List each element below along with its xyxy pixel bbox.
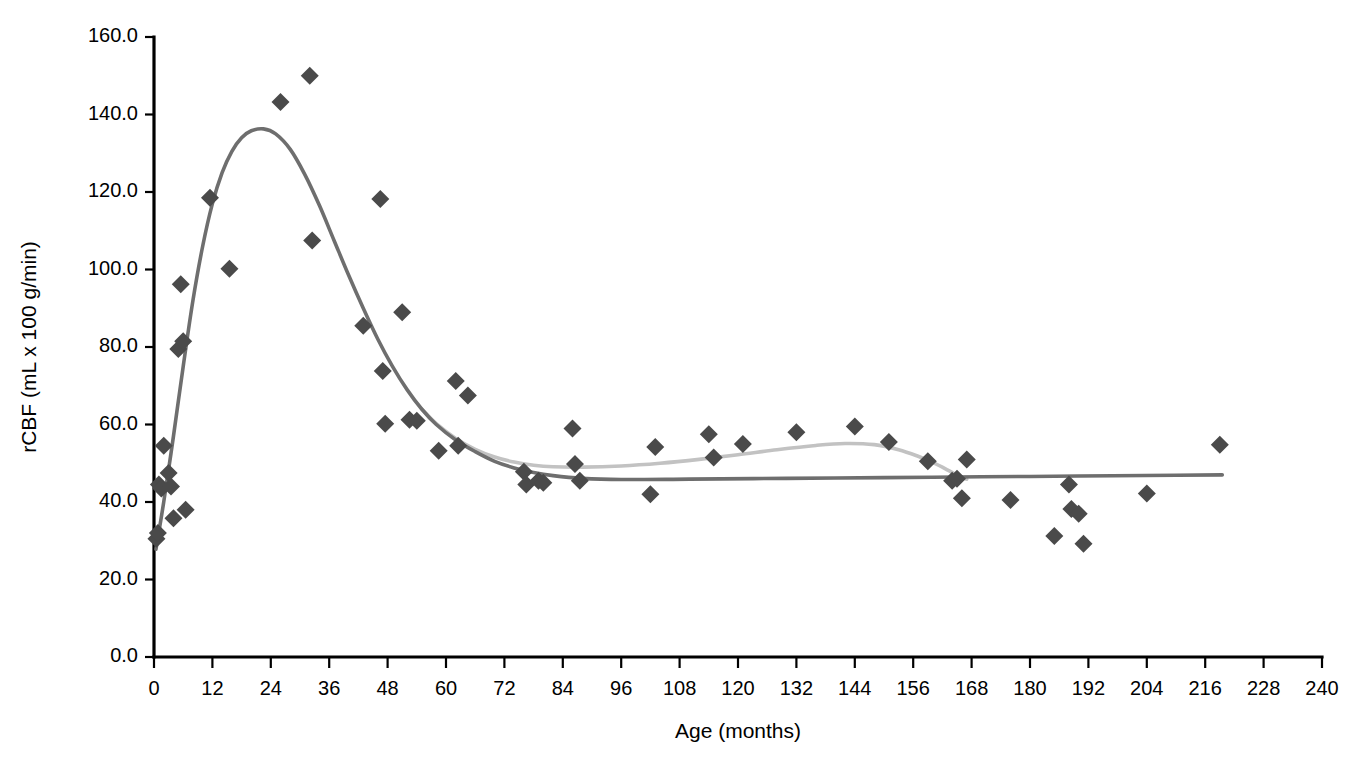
data-point-marker bbox=[301, 67, 319, 85]
x-tick-label: 0 bbox=[148, 677, 159, 699]
y-axis-tick-group: 0.020.040.060.080.0100.0120.0140.0160.0 bbox=[88, 24, 154, 666]
y-tick-label: 20.0 bbox=[99, 567, 138, 589]
data-point-marker bbox=[1002, 491, 1020, 509]
x-axis-title: Age (months) bbox=[675, 719, 801, 742]
chart-container: 0.020.040.060.080.0100.0120.0140.0160.0 … bbox=[0, 0, 1356, 763]
x-tick-label: 216 bbox=[1189, 677, 1222, 699]
data-point-marker bbox=[272, 93, 290, 111]
data-point-marker bbox=[566, 455, 584, 473]
data-point-marker bbox=[646, 438, 664, 456]
data-point-marker bbox=[958, 450, 976, 468]
data-point-marker bbox=[919, 452, 937, 470]
data-point-marker bbox=[846, 417, 864, 435]
x-tick-label: 24 bbox=[260, 677, 282, 699]
x-tick-label: 48 bbox=[376, 677, 398, 699]
x-tick-label: 240 bbox=[1305, 677, 1338, 699]
data-point-marker bbox=[393, 303, 411, 321]
x-tick-label: 72 bbox=[493, 677, 515, 699]
x-tick-label: 228 bbox=[1247, 677, 1280, 699]
x-tick-label: 108 bbox=[663, 677, 696, 699]
x-axis-tick-group: 0122436486072849610812013214415616818019… bbox=[148, 657, 1338, 699]
y-tick-label: 160.0 bbox=[88, 24, 138, 46]
y-tick-label: 140.0 bbox=[88, 102, 138, 124]
x-tick-label: 84 bbox=[552, 677, 574, 699]
data-point-marker bbox=[371, 190, 389, 208]
data-point-marker bbox=[172, 275, 190, 293]
y-tick-label: 40.0 bbox=[99, 489, 138, 511]
x-tick-label: 168 bbox=[955, 677, 988, 699]
data-point-marker bbox=[564, 419, 582, 437]
data-point-marker bbox=[700, 425, 718, 443]
y-tick-label: 60.0 bbox=[99, 412, 138, 434]
data-point-marker bbox=[220, 260, 238, 278]
data-point-marker bbox=[1138, 484, 1156, 502]
x-tick-label: 192 bbox=[1072, 677, 1105, 699]
scatter-plot: 0.020.040.060.080.0100.0120.0140.0160.0 … bbox=[0, 0, 1356, 763]
data-point-marker bbox=[1060, 476, 1078, 494]
y-tick-label: 80.0 bbox=[99, 334, 138, 356]
data-point-marker bbox=[953, 489, 971, 507]
data-point-marker bbox=[449, 437, 467, 455]
x-tick-label: 204 bbox=[1130, 677, 1163, 699]
x-tick-label: 96 bbox=[610, 677, 632, 699]
x-tick-label: 180 bbox=[1013, 677, 1046, 699]
data-point-marker bbox=[705, 448, 723, 466]
x-tick-label: 132 bbox=[780, 677, 813, 699]
y-tick-label: 0.0 bbox=[110, 644, 138, 666]
data-point-marker bbox=[376, 415, 394, 433]
data-point-marker bbox=[303, 231, 321, 249]
data-point-marker bbox=[1045, 527, 1063, 545]
data-point-marker bbox=[430, 442, 448, 460]
x-tick-label: 156 bbox=[897, 677, 930, 699]
x-tick-label: 144 bbox=[838, 677, 871, 699]
x-tick-label: 60 bbox=[435, 677, 457, 699]
data-point-marker bbox=[447, 372, 465, 390]
y-tick-label: 120.0 bbox=[88, 179, 138, 201]
y-tick-label: 100.0 bbox=[88, 257, 138, 279]
y-axis-title: rCBF (mL x 100 g/min) bbox=[17, 241, 40, 453]
data-point-marker bbox=[459, 386, 477, 404]
x-tick-label: 36 bbox=[318, 677, 340, 699]
data-point-marker bbox=[1211, 436, 1229, 454]
data-point-marker bbox=[374, 362, 392, 380]
data-point-marker bbox=[1075, 535, 1093, 553]
data-point-marker bbox=[787, 423, 805, 441]
x-tick-label: 120 bbox=[721, 677, 754, 699]
data-point-marker bbox=[641, 485, 659, 503]
x-tick-label: 12 bbox=[201, 677, 223, 699]
data-point-marker bbox=[734, 435, 752, 453]
data-point-marker bbox=[571, 472, 589, 490]
